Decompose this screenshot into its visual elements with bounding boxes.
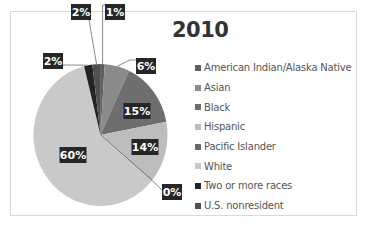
data-label: 2%	[72, 6, 91, 19]
legend-item: Pacific Islander	[195, 137, 351, 157]
legend-swatch	[195, 203, 201, 209]
legend-label: Black	[204, 102, 230, 113]
data-label: 14%	[132, 141, 158, 154]
legend-swatch	[195, 65, 201, 71]
data-label: 0%	[163, 186, 182, 199]
legend-swatch	[195, 183, 201, 189]
legend-swatch	[195, 163, 201, 169]
legend-item: Asian	[195, 78, 351, 98]
legend-item: American Indian/Alaska Native	[195, 58, 351, 78]
data-label: 1%	[106, 6, 125, 19]
legend-item: Black	[195, 97, 351, 117]
legend-item: Hispanic	[195, 117, 351, 137]
legend-label: White	[204, 161, 232, 172]
leader-line	[117, 60, 136, 66]
legend-label: Asian	[204, 82, 230, 93]
data-label: 2%	[44, 55, 63, 68]
leader-line	[152, 180, 162, 190]
legend-swatch	[195, 85, 201, 91]
legend-swatch	[195, 144, 201, 150]
legend: American Indian/Alaska NativeAsianBlackH…	[195, 58, 351, 216]
legend-label: Hispanic	[204, 121, 245, 132]
data-label: 15%	[124, 105, 150, 118]
chart-title: 2010	[172, 18, 228, 42]
legend-swatch	[195, 104, 201, 110]
data-label: 6%	[137, 60, 156, 73]
data-label: 60%	[60, 149, 86, 162]
legend-label: American Indian/Alaska Native	[204, 62, 351, 73]
legend-item: U.S. nonresident	[195, 196, 351, 216]
legend-item: White	[195, 156, 351, 176]
legend-label: U.S. nonresident	[204, 200, 284, 211]
legend-swatch	[195, 124, 201, 130]
leader-line	[89, 20, 97, 64]
legend-item: Two or more races	[195, 176, 351, 196]
leader-line	[103, 5, 105, 64]
legend-label: Pacific Islander	[204, 141, 276, 152]
legend-label: Two or more races	[204, 180, 292, 191]
